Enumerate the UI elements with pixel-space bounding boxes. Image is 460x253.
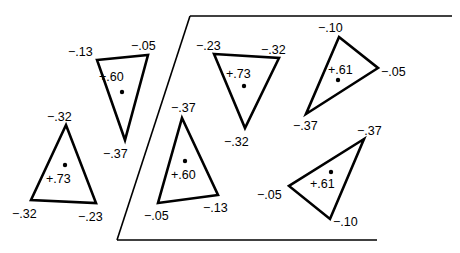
triangle-t6: +.61−.37−.05−.10 <box>257 124 382 229</box>
triangle-t4: +.61−.10−.05−.37 <box>293 21 406 133</box>
vertex-charge-label: −.37 <box>357 124 382 138</box>
center-dot <box>242 84 246 88</box>
triangle-t1: +.60−.13−.05−.37 <box>68 39 156 161</box>
center-dot <box>120 90 124 94</box>
center-dot <box>63 163 67 167</box>
vertex-charge-label: −.05 <box>131 39 156 53</box>
vertex-charge-label: −.23 <box>78 210 103 224</box>
center-charge-label: +.73 <box>226 67 251 81</box>
vertex-charge-label: −.05 <box>257 188 282 202</box>
vertex-charge-label: −.05 <box>381 65 406 79</box>
triangle-t2: +.73−.32−.32−.23 <box>12 110 103 224</box>
vertex-charge-label: −.23 <box>196 39 221 53</box>
center-dot <box>329 170 333 174</box>
triangles-group: +.60−.13−.05−.37+.73−.32−.32−.23+.73−.23… <box>12 21 406 229</box>
vertex-charge-label: −.37 <box>293 119 318 133</box>
vertex-charge-label: −.10 <box>318 21 343 35</box>
center-charge-label: +.61 <box>310 177 335 191</box>
center-dot <box>336 78 340 82</box>
triangle-outline <box>97 55 148 140</box>
vertex-charge-label: −.32 <box>12 207 37 221</box>
vertex-charge-label: −.13 <box>68 45 93 59</box>
center-charge-label: +.60 <box>171 168 196 182</box>
vertex-charge-label: −.32 <box>224 135 249 149</box>
vertex-charge-label: −.10 <box>333 215 358 229</box>
vertex-charge-label: −.37 <box>171 101 196 115</box>
vertex-charge-label: −.32 <box>47 110 72 124</box>
vertex-charge-label: −.05 <box>144 209 169 223</box>
center-dot <box>183 159 187 163</box>
vertex-charge-label: −.37 <box>103 147 128 161</box>
triangle-outline <box>158 118 218 203</box>
triangle-outline <box>214 54 279 128</box>
vertex-charge-label: −.32 <box>261 43 286 57</box>
vertex-charge-label: −.13 <box>203 201 228 215</box>
center-charge-label: +.61 <box>328 63 353 77</box>
center-charge-label: +.73 <box>46 172 71 186</box>
center-charge-label: +.60 <box>99 70 124 84</box>
triangle-t3: +.73−.23−.32−.32 <box>196 39 286 149</box>
triangle-charge-diagram: +.60−.13−.05−.37+.73−.32−.32−.23+.73−.23… <box>0 0 460 253</box>
